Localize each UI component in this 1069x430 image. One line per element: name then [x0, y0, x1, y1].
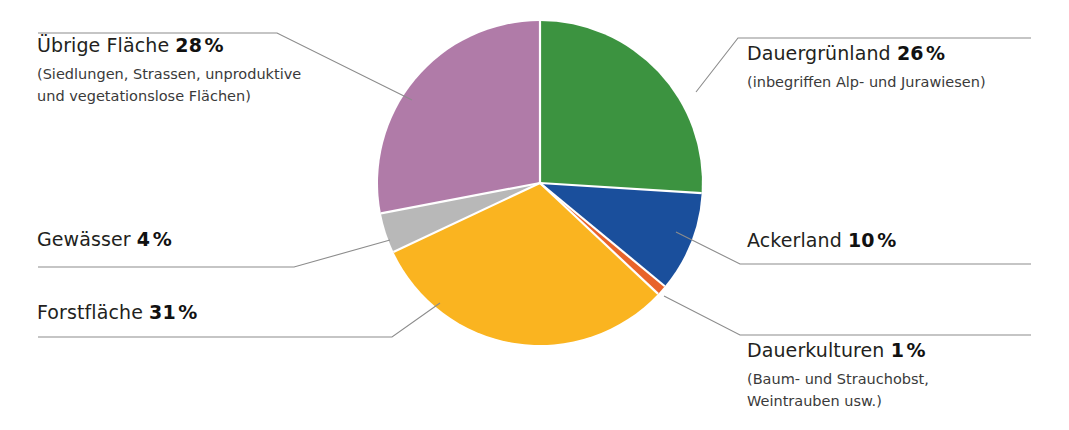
callout-percent-sign-ackerland: %: [877, 229, 896, 251]
callout-note-line-2: und vegetationslose Flächen): [37, 86, 301, 108]
callout-name-uebrige-flaeche: Übrige Fläche: [37, 34, 169, 56]
callout-title-forstflaeche: Forstfläche 31%: [37, 303, 197, 322]
callout-label-gewaesser[interactable]: Gewässer 4%: [37, 230, 172, 249]
callout-name-dauergruenland: Dauergrünland: [747, 42, 891, 64]
callout-note-line-1: (Baum- und Strauchobst,: [747, 369, 929, 391]
callout-percent-dauerkulturen: 1: [891, 339, 904, 361]
callout-percent-ackerland: 10: [848, 229, 875, 251]
callout-title-ackerland: Ackerland 10%: [747, 231, 896, 250]
callout-percent-sign-uebrige-flaeche: %: [204, 34, 223, 56]
callout-label-ackerland[interactable]: Ackerland 10%: [747, 231, 896, 250]
callout-percent-gewaesser: 4: [137, 228, 150, 250]
callout-name-dauerkulturen: Dauerkulturen: [747, 339, 884, 361]
callout-percent-forstflaeche: 31: [149, 301, 176, 323]
callout-name-gewaesser: Gewässer: [37, 228, 131, 250]
callout-percent-sign-dauerkulturen: %: [906, 339, 925, 361]
callout-note-dauerkulturen: (Baum- und Strauchobst, Weintrauben usw.…: [747, 369, 929, 413]
callout-label-dauerkulturen[interactable]: Dauerkulturen 1% (Baum- und Strauchobst,…: [747, 341, 929, 413]
callout-percent-uebrige-flaeche: 28: [175, 34, 202, 56]
pie-slice-uebrige-flaeche[interactable]: [378, 21, 540, 213]
callout-percent-dauergruenland: 26: [897, 42, 924, 64]
callout-note-uebrige-flaeche: (Siedlungen, Strassen, unproduktive und …: [37, 64, 301, 108]
callout-note-line-2: Weintrauben usw.): [747, 391, 929, 413]
pie-slice-dauergruenland[interactable]: [540, 21, 702, 193]
callout-percent-sign-dauergruenland: %: [926, 42, 945, 64]
pie-slices: [378, 21, 702, 345]
pie-chart-figure: Übrige Fläche 28% (Siedlungen, Strassen,…: [0, 0, 1069, 430]
callout-name-forstflaeche: Forstfläche: [37, 301, 143, 323]
leader-line-dauerkulturen: [664, 296, 1031, 335]
callout-percent-sign-gewaesser: %: [153, 228, 172, 250]
callout-note-dauergruenland: (inbegriffen Alp- und Jurawiesen): [747, 72, 986, 94]
callout-note-line-1: (Siedlungen, Strassen, unproduktive: [37, 64, 301, 86]
callout-label-forstflaeche[interactable]: Forstfläche 31%: [37, 303, 197, 322]
callout-name-ackerland: Ackerland: [747, 229, 842, 251]
callout-percent-sign-forstflaeche: %: [178, 301, 197, 323]
callout-label-uebrige-flaeche[interactable]: Übrige Fläche 28% (Siedlungen, Strassen,…: [37, 36, 301, 108]
callout-title-uebrige-flaeche: Übrige Fläche 28%: [37, 36, 301, 55]
callout-label-dauergruenland[interactable]: Dauergrünland 26% (inbegriffen Alp- und …: [747, 44, 986, 94]
callout-title-gewaesser: Gewässer 4%: [37, 230, 172, 249]
callout-title-dauerkulturen: Dauerkulturen 1%: [747, 341, 929, 360]
callout-title-dauergruenland: Dauergrünland 26%: [747, 44, 986, 63]
callout-note-line-1: (inbegriffen Alp- und Jurawiesen): [747, 72, 986, 94]
